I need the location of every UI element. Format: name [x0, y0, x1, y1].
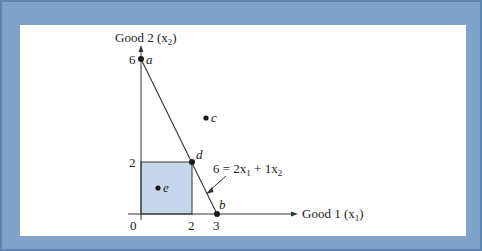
x-axis-label: Good 1 (x1) — [302, 206, 364, 223]
label-e: e — [163, 180, 169, 195]
y-tick-6: 6 — [129, 52, 136, 67]
y-tick-2: 2 — [129, 155, 136, 170]
label-d: d — [196, 147, 203, 162]
budget-diagram: Good 2 (x2) Good 1 (x1) 6 2 0 2 3 a b c … — [0, 0, 482, 251]
point-d — [189, 159, 195, 165]
figure-frame: Good 2 (x2) Good 1 (x1) 6 2 0 2 3 a b c … — [0, 0, 482, 251]
label-b: b — [219, 197, 226, 212]
origin-label: 0 — [130, 218, 137, 233]
point-e — [155, 185, 160, 190]
point-a — [138, 56, 144, 62]
y-axis-label: Good 2 (x2) — [115, 30, 177, 47]
x-tick-2: 2 — [188, 218, 195, 233]
x-tick-3: 3 — [213, 218, 220, 233]
label-c: c — [211, 110, 217, 125]
plot-panel — [20, 25, 466, 236]
label-a: a — [146, 52, 153, 67]
point-c — [203, 115, 208, 120]
